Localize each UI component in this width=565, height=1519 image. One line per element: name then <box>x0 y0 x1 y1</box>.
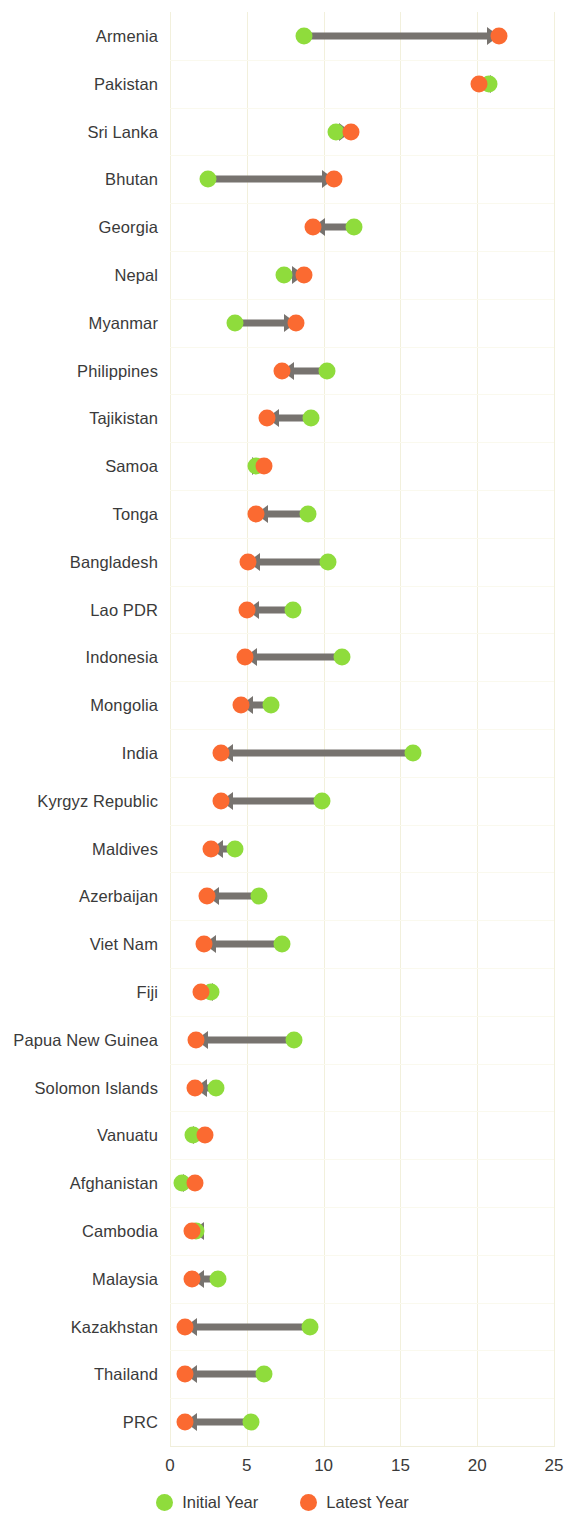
data-point-latest-year <box>237 649 254 666</box>
dumbbell-arrow-chart: ArmeniaPakistanSri LankaBhutanGeorgiaNep… <box>0 0 565 1519</box>
gridline-horizontal <box>170 347 554 348</box>
gridline-horizontal <box>170 1111 554 1112</box>
change-arrow-shaft <box>196 1036 294 1043</box>
x-tick-label: 0 <box>165 1456 174 1476</box>
gridline-horizontal <box>170 586 554 587</box>
data-point-latest-year <box>186 1175 203 1192</box>
data-point-latest-year <box>192 983 209 1000</box>
category-label: Nepal <box>114 265 158 284</box>
category-label: Myanmar <box>89 313 158 332</box>
gridline-horizontal <box>170 155 554 156</box>
legend-label: Latest Year <box>326 1493 409 1512</box>
data-point-latest-year <box>177 1318 194 1335</box>
data-point-initial-year <box>318 362 335 379</box>
gridline-horizontal <box>170 251 554 252</box>
data-point-initial-year <box>346 219 363 236</box>
category-label: Malaysia <box>92 1269 158 1288</box>
data-point-latest-year <box>197 1127 214 1144</box>
data-point-latest-year <box>274 362 291 379</box>
category-label: Mongolia <box>90 696 158 715</box>
gridline-horizontal <box>170 203 554 204</box>
category-label: Azerbaijan <box>79 887 158 906</box>
category-label: Viet Nam <box>90 935 158 954</box>
category-label: Vanuatu <box>97 1126 158 1145</box>
gridline-horizontal <box>170 920 554 921</box>
plot-area <box>170 12 554 1446</box>
data-point-latest-year <box>203 840 220 857</box>
x-tick-label: 25 <box>545 1456 564 1476</box>
x-tick-label: 5 <box>242 1456 251 1476</box>
gridline-horizontal <box>170 60 554 61</box>
gridline-horizontal <box>170 442 554 443</box>
gridline-horizontal <box>170 681 554 682</box>
data-point-initial-year <box>314 792 331 809</box>
legend-label: Initial Year <box>182 1493 258 1512</box>
gridline-horizontal <box>170 1255 554 1256</box>
legend-swatch-circle-icon <box>156 1494 173 1511</box>
change-arrow-shaft <box>221 797 322 804</box>
data-point-latest-year <box>326 171 343 188</box>
category-label: Fiji <box>137 982 158 1001</box>
data-point-latest-year <box>343 123 360 140</box>
data-point-initial-year <box>243 1414 260 1431</box>
data-point-latest-year <box>183 1222 200 1239</box>
legend-item-latest-year[interactable]: Latest Year <box>300 1493 409 1512</box>
gridline-horizontal <box>170 968 554 969</box>
data-point-latest-year <box>212 744 229 761</box>
category-label: Philippines <box>77 361 158 380</box>
gridline-horizontal <box>170 777 554 778</box>
gridline-horizontal <box>170 538 554 539</box>
data-point-latest-year <box>188 1031 205 1048</box>
data-point-initial-year <box>295 27 312 44</box>
data-point-latest-year <box>248 505 265 522</box>
data-point-latest-year <box>295 266 312 283</box>
x-tick-label: 15 <box>391 1456 410 1476</box>
gridline-horizontal <box>170 1398 554 1399</box>
data-point-initial-year <box>286 1031 303 1048</box>
data-point-latest-year <box>258 410 275 427</box>
data-point-latest-year <box>232 697 249 714</box>
legend-item-initial-year[interactable]: Initial Year <box>156 1493 258 1512</box>
change-arrow-shaft <box>221 749 413 756</box>
gridline-horizontal <box>170 633 554 634</box>
category-label: Bhutan <box>105 170 158 189</box>
category-label: Armenia <box>96 26 158 45</box>
data-point-latest-year <box>238 601 255 618</box>
change-arrow-shaft <box>304 32 499 39</box>
data-point-latest-year <box>186 1079 203 1096</box>
data-point-initial-year <box>251 888 268 905</box>
x-tick-label: 10 <box>314 1456 333 1476</box>
gridline-horizontal <box>170 1016 554 1017</box>
data-point-initial-year <box>209 1270 226 1287</box>
category-label: Thailand <box>94 1365 158 1384</box>
data-point-initial-year <box>226 840 243 857</box>
category-label: Lao PDR <box>90 600 158 619</box>
data-point-latest-year <box>490 27 507 44</box>
gridline-horizontal <box>170 299 554 300</box>
data-point-initial-year <box>208 1079 225 1096</box>
category-label: Maldives <box>92 839 158 858</box>
change-arrow-shaft <box>208 176 334 183</box>
gridline-horizontal <box>170 108 554 109</box>
category-label: Tajikistan <box>89 409 158 428</box>
category-label: Samoa <box>105 457 158 476</box>
data-point-latest-year <box>304 219 321 236</box>
gridline-horizontal <box>170 1303 554 1304</box>
category-label: Indonesia <box>86 648 158 667</box>
data-point-initial-year <box>263 697 280 714</box>
x-tick-label: 20 <box>468 1456 487 1476</box>
category-label: Georgia <box>99 218 158 237</box>
category-label: Solomon Islands <box>35 1078 159 1097</box>
category-axis-labels: ArmeniaPakistanSri LankaBhutanGeorgiaNep… <box>0 0 158 1450</box>
data-point-initial-year <box>274 936 291 953</box>
chart-legend: Initial YearLatest Year <box>0 1489 565 1515</box>
data-point-initial-year <box>303 410 320 427</box>
gridline-horizontal <box>170 872 554 873</box>
gridline-horizontal <box>170 1159 554 1160</box>
category-label: Tonga <box>113 504 158 523</box>
x-axis-line <box>170 1446 555 1447</box>
change-arrow-shaft <box>185 1323 309 1330</box>
data-point-latest-year <box>240 553 257 570</box>
gridline-vertical <box>554 12 555 1446</box>
category-label: Pakistan <box>94 74 158 93</box>
